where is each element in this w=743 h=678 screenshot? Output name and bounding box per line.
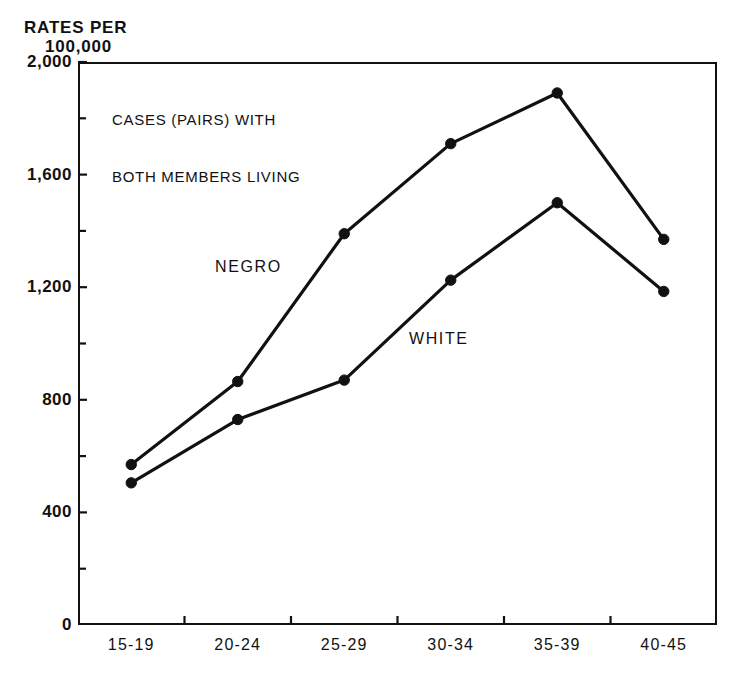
y-axis-tick-label: 0	[14, 615, 72, 635]
x-axis-tick-label: 15-19	[76, 636, 186, 654]
y-axis-tick-label: 1,200	[14, 277, 72, 297]
x-axis-tick-label: 30-34	[396, 636, 506, 654]
plot-annotation-line-1: CASES (PAIRS) WITH	[112, 110, 300, 129]
plot-annotation: CASES (PAIRS) WITH BOTH MEMBERS LIVING	[112, 72, 300, 224]
y-axis-tick-label: 800	[14, 390, 72, 410]
y-axis-tick-labels: 2,0001,6001,2008004000	[8, 0, 72, 678]
x-axis-tick-label: 40-45	[609, 636, 719, 654]
chart-figure: RATES PER 100,000 CASES (PAIRS) WITH BOT…	[0, 0, 743, 678]
x-axis-tick-label: 35-39	[502, 636, 612, 654]
series-label-negro: NEGRO	[215, 258, 282, 276]
y-axis-tick-label: 2,000	[14, 52, 72, 72]
x-axis-tick-label: 25-29	[289, 636, 399, 654]
plot-annotation-line-2: BOTH MEMBERS LIVING	[112, 167, 300, 186]
x-axis-tick-label: 20-24	[183, 636, 293, 654]
y-axis-tick-label: 400	[14, 502, 72, 522]
series-label-white: WHITE	[409, 330, 469, 348]
y-axis-tick-label: 1,600	[14, 165, 72, 185]
